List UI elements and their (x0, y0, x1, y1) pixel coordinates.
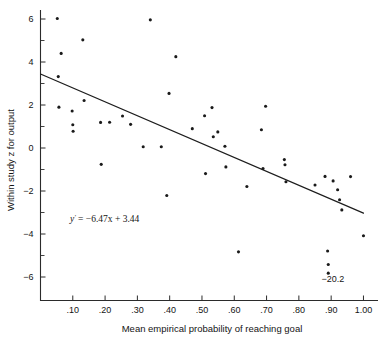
data-point (340, 208, 343, 211)
x-tick-label: .40 (163, 305, 176, 315)
data-point (216, 130, 219, 133)
data-point (323, 175, 326, 178)
data-point (121, 114, 124, 117)
data-point (57, 106, 60, 109)
y-axis-tick-labels: 6420−2−4−6 (23, 14, 33, 282)
data-point (212, 135, 215, 138)
x-tick-label: .10 (67, 305, 80, 315)
y-tick-label: −4 (23, 229, 33, 239)
data-point (260, 128, 263, 131)
x-tick-label: .20 (99, 305, 112, 315)
y-tick-label: 0 (28, 143, 33, 153)
x-tick-label: .70 (260, 305, 273, 315)
x-tick-label: .80 (293, 305, 306, 315)
data-point (261, 167, 264, 170)
data-point (313, 183, 316, 186)
x-tick-label: .90 (325, 305, 338, 315)
data-point (264, 105, 267, 108)
x-axis-tick-labels: .10.20.30.40.50.60.70.80.901.00 (67, 305, 373, 315)
data-point (237, 250, 240, 253)
axes (41, 10, 379, 301)
data-point (149, 18, 152, 21)
data-point (60, 52, 63, 55)
y-tick-label: 2 (28, 100, 33, 110)
data-point (223, 145, 226, 148)
data-point (71, 123, 74, 126)
data-point (210, 106, 213, 109)
data-point (72, 130, 75, 133)
data-point (100, 163, 103, 166)
data-point (83, 99, 86, 102)
data-point (167, 92, 170, 95)
data-points (56, 17, 365, 275)
data-point (129, 123, 132, 126)
data-point (326, 249, 329, 252)
y-tick-label: −2 (23, 186, 33, 196)
data-point (99, 121, 102, 124)
data-point (283, 158, 286, 161)
annotations: −20.2 (321, 274, 344, 284)
data-point (71, 109, 74, 112)
data-point (56, 17, 59, 20)
data-point (336, 188, 339, 191)
data-point (191, 127, 194, 130)
y-tick-label: 4 (28, 57, 33, 67)
data-point (203, 114, 206, 117)
data-point (81, 38, 84, 41)
data-point (332, 179, 335, 182)
axis-spine (41, 10, 379, 301)
data-point (327, 263, 330, 266)
data-point (362, 234, 365, 237)
x-tick-label: .60 (228, 305, 241, 315)
scatter-plot-figure: .10.20.30.40.50.60.70.80.901.00 6420−2−4… (0, 0, 384, 338)
data-point (57, 75, 60, 78)
data-point (108, 121, 111, 124)
y-tick-label: 6 (28, 14, 33, 24)
x-tick-label: .50 (196, 305, 209, 315)
data-point (283, 163, 286, 166)
data-point (284, 180, 287, 183)
data-point (160, 145, 163, 148)
plot-canvas: .10.20.30.40.50.60.70.80.901.00 6420−2−4… (0, 0, 384, 338)
x-tick-label: 1.00 (355, 305, 373, 315)
data-point (142, 145, 145, 148)
regression-line-segment (41, 74, 364, 213)
data-point (165, 194, 168, 197)
x-tick-label: .30 (131, 305, 144, 315)
regression-line (41, 74, 364, 213)
data-point (338, 198, 341, 201)
data-point (204, 172, 207, 175)
data-point (245, 185, 248, 188)
x-axis-title: Mean empirical probability of reaching g… (122, 323, 303, 334)
data-point (349, 175, 352, 178)
data-point (224, 165, 227, 168)
y-tick-label: −6 (23, 272, 33, 282)
y-axis-title: Within study z for output (5, 109, 16, 211)
point-value-annotation: −20.2 (321, 274, 344, 284)
regression-equation-label: y' = −6.47x + 3.44 (69, 213, 140, 224)
tick-marks (41, 19, 364, 301)
data-point (174, 55, 177, 58)
